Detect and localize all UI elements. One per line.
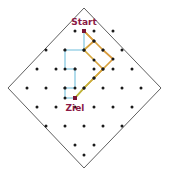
path-node (93, 77, 96, 80)
lattice-dot (26, 87, 29, 90)
path-node (102, 68, 105, 71)
lattice-dot (36, 106, 39, 109)
lattice-dot (131, 106, 134, 109)
path-node (93, 59, 96, 62)
lattice-dot (140, 87, 143, 90)
path-node (112, 58, 115, 61)
lattice-dot (45, 49, 48, 52)
ziel-label: Ziel (66, 103, 85, 113)
path-node (83, 49, 86, 52)
lattice-dot (45, 125, 48, 128)
lattice-path-figure: Start Ziel (0, 0, 169, 175)
path-node (74, 68, 77, 71)
lattice-dot (121, 125, 124, 128)
lattice-dot (55, 106, 58, 109)
path-node (83, 87, 86, 90)
path-node (64, 49, 67, 52)
lattice-dot (93, 106, 96, 109)
lattice-dot (83, 154, 86, 157)
lattice-dot (131, 68, 134, 71)
lattice-dot (83, 125, 86, 128)
figure-canvas: Start Ziel (0, 0, 169, 175)
path-node (93, 40, 96, 43)
start-marker (82, 29, 86, 33)
start-label: Start (71, 17, 97, 27)
lattice-dot (55, 68, 58, 71)
lattice-dot (121, 87, 124, 90)
lattice-dot (64, 125, 67, 128)
lattice-dot (45, 87, 48, 90)
ziel-marker (73, 96, 77, 100)
lattice-dot (112, 106, 115, 109)
lattice-dot (74, 30, 77, 33)
lattice-dot (121, 49, 124, 52)
lattice-dot (74, 144, 77, 147)
lattice-dot (112, 30, 115, 33)
path-node (64, 97, 67, 100)
lattice-dot (93, 30, 96, 33)
path-node (64, 68, 67, 71)
lattice-dot (93, 144, 96, 147)
lattice-dot (112, 68, 115, 71)
lattice-dot (36, 68, 39, 71)
path-node (102, 49, 105, 52)
path-node (74, 87, 77, 90)
lattice-dot (102, 87, 105, 90)
path-node (64, 87, 67, 90)
lattice-dot (102, 125, 105, 128)
lattice-dot (93, 68, 96, 71)
